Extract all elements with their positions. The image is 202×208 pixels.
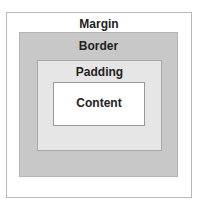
padding-label: Padding <box>38 65 161 79</box>
content-label: Content <box>54 96 144 110</box>
margin-label: Margin <box>7 17 191 31</box>
content-box: Content <box>53 82 145 126</box>
border-label: Border <box>20 39 177 53</box>
